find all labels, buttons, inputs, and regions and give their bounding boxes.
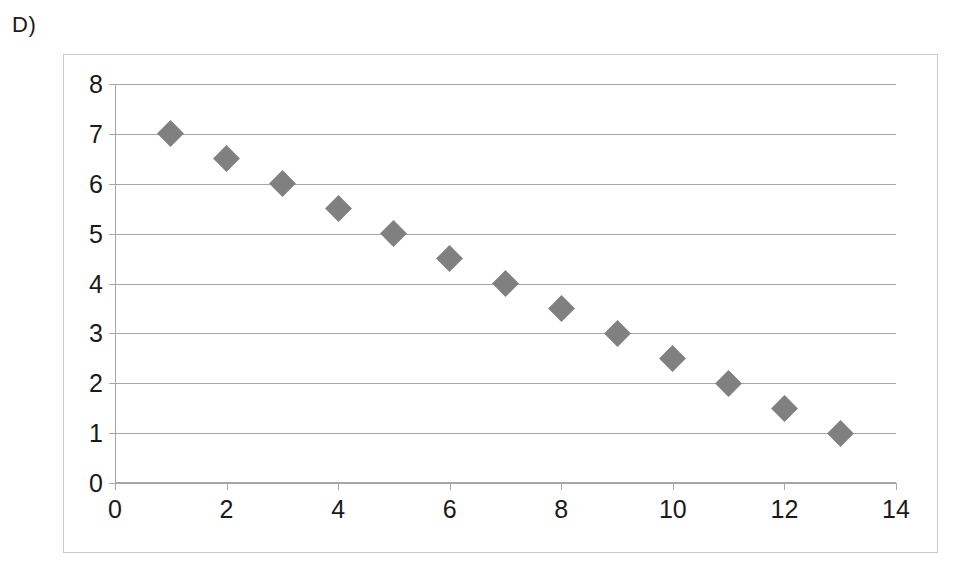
data-point-marker — [436, 245, 463, 272]
x-tick-mark — [115, 483, 116, 490]
gridline-y — [115, 433, 896, 434]
y-tick-label: 6 — [89, 171, 103, 196]
y-tick-mark — [109, 333, 115, 334]
y-tick-mark — [109, 284, 115, 285]
y-tick-label: 1 — [89, 421, 103, 446]
plot-area: 012345678 02468101214 — [115, 84, 896, 483]
x-tick-mark — [227, 483, 228, 490]
x-tick-mark — [338, 483, 339, 490]
gridline-y — [115, 333, 896, 334]
y-tick-label: 3 — [89, 321, 103, 346]
y-tick-label: 7 — [89, 121, 103, 146]
x-tick-label: 14 — [882, 497, 910, 522]
x-tick-mark — [450, 483, 451, 490]
data-point-marker — [325, 195, 352, 222]
data-point-marker — [157, 120, 184, 147]
y-tick-label: 8 — [89, 72, 103, 97]
x-tick-mark — [896, 483, 897, 490]
gridline-y — [115, 483, 896, 484]
gridline-y — [115, 234, 896, 235]
data-point-marker — [827, 420, 854, 447]
data-point-marker — [548, 295, 575, 322]
data-point-marker — [604, 320, 631, 347]
x-tick-label: 2 — [220, 497, 234, 522]
data-point-marker — [213, 145, 240, 172]
data-point-marker — [269, 170, 296, 197]
chart-frame: 012345678 02468101214 — [63, 54, 938, 553]
gridline-y — [115, 383, 896, 384]
y-tick-mark — [109, 184, 115, 185]
gridline-y — [115, 84, 896, 85]
y-tick-label: 4 — [89, 271, 103, 296]
data-point-marker — [771, 395, 798, 422]
y-tick-mark — [109, 234, 115, 235]
x-tick-label: 6 — [443, 497, 457, 522]
x-tick-label: 0 — [108, 497, 122, 522]
y-tick-mark — [109, 84, 115, 85]
y-tick-mark — [109, 134, 115, 135]
data-point-marker — [659, 345, 686, 372]
y-tick-mark — [109, 433, 115, 434]
x-tick-label: 12 — [771, 497, 799, 522]
x-tick-mark — [673, 483, 674, 490]
y-tick-label: 5 — [89, 221, 103, 246]
y-tick-label: 2 — [89, 371, 103, 396]
x-tick-label: 4 — [331, 497, 345, 522]
figure-root: D) 012345678 02468101214 — [0, 0, 957, 582]
data-point-marker — [492, 270, 519, 297]
panel-label: D) — [12, 14, 36, 36]
gridline-y — [115, 184, 896, 185]
y-tick-label: 0 — [89, 471, 103, 496]
gridline-y — [115, 134, 896, 135]
x-tick-label: 10 — [659, 497, 687, 522]
data-point-marker — [380, 220, 407, 247]
x-tick-label: 8 — [554, 497, 568, 522]
x-tick-mark — [561, 483, 562, 490]
y-tick-mark — [109, 383, 115, 384]
data-point-marker — [715, 370, 742, 397]
x-tick-mark — [784, 483, 785, 490]
